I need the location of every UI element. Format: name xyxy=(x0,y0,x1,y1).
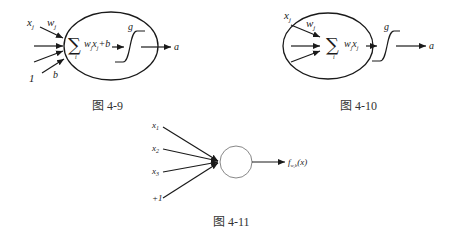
input-label-x2: x2 xyxy=(151,143,159,154)
input-arrow-x1 xyxy=(163,127,218,161)
figure-4-9: xj wj 1 b ∑ i wjxj+b g a xyxy=(26,12,179,84)
neuron-circle xyxy=(220,146,252,178)
input-label-x1: x1 xyxy=(151,120,159,131)
input-label-bias: +1 xyxy=(152,193,163,203)
figure-4-10: xj wj ∑ i wjxj g a xyxy=(283,9,434,79)
bias-label: b xyxy=(53,69,58,80)
input-arrow-xj xyxy=(40,27,63,38)
input-arrow-xj xyxy=(283,24,292,26)
caption-fig-4-10: 图 4-10 xyxy=(340,96,377,114)
caption-fig-4-11: 图 4-11 xyxy=(213,212,250,229)
output-label-a: a xyxy=(429,40,434,51)
activation-label-g: g xyxy=(384,21,389,32)
input-arrow-x3 xyxy=(163,162,218,172)
input-label-xj: xj xyxy=(26,16,34,31)
weighted-sum-expression: wjxj+b xyxy=(84,38,110,51)
sum-symbol: ∑ xyxy=(326,34,339,55)
output-label-a: a xyxy=(174,41,179,52)
caption-fig-4-9: 图 4-9 xyxy=(92,96,123,114)
diagram-canvas: xj wj 1 b ∑ i wjxj+b g a xj wj ∑ i wjxj … xyxy=(0,0,455,229)
input-label-xj: xj xyxy=(283,9,291,24)
figure-4-11: x1 x2 x3 +1 fw,b(x) xyxy=(151,120,307,203)
weight-label-wj: wj xyxy=(306,17,315,32)
output-label-fwb: fw,b(x) xyxy=(288,157,307,169)
input-label-x3: x3 xyxy=(151,166,159,177)
input-arrow-low xyxy=(34,51,63,62)
weighted-sum-expression: wjxj xyxy=(344,38,359,51)
input-arrow-low xyxy=(291,51,320,62)
sum-symbol: ∑ xyxy=(68,34,81,55)
input-arrow-bias xyxy=(163,163,218,198)
bias-input-label: 1 xyxy=(29,72,35,84)
input-arrow-x2 xyxy=(163,149,218,161)
weight-label-wj: wj xyxy=(47,16,56,31)
activation-label-g: g xyxy=(128,21,133,32)
